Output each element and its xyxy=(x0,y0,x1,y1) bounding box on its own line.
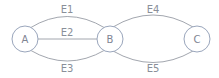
edge-label-e3: E3 xyxy=(61,63,74,74)
node-c: C xyxy=(184,26,210,52)
edge-e5 xyxy=(113,51,193,63)
graph-diagram: E1 E2 E3 E4 E5 A B C xyxy=(0,0,219,78)
node-c-label: C xyxy=(194,34,201,45)
node-b-label: B xyxy=(107,34,114,45)
edge-label-e2: E2 xyxy=(61,27,74,38)
edge-label-e1: E1 xyxy=(61,4,74,15)
edge-e3 xyxy=(30,50,105,61)
node-a: A xyxy=(12,26,38,52)
edge-e4 xyxy=(113,15,193,27)
edge-label-e5: E5 xyxy=(147,63,160,74)
node-a-label: A xyxy=(22,34,29,45)
edge-label-e4: E4 xyxy=(147,4,160,15)
node-b: B xyxy=(97,26,123,52)
